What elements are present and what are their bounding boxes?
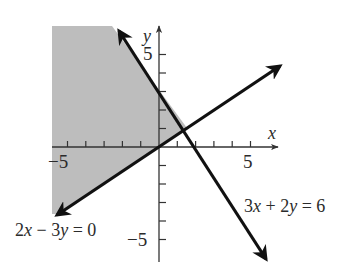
eq1-op: +: [261, 196, 280, 216]
equation-label-3x-plus-2y: 3x + 2y = 6: [244, 196, 325, 216]
eq2-var-x: x: [23, 220, 32, 240]
y-tick-label-5: 5: [143, 43, 153, 64]
eq2-coef-a: 2: [15, 220, 24, 240]
inequality-graph: x y −5 5 5 −5 3x + 2y = 6 2x − 3y = 0: [0, 0, 352, 271]
x-tick-label-neg5: −5: [48, 151, 68, 172]
y-tick-label-neg5: −5: [127, 229, 147, 250]
eq1-var-x: x: [252, 196, 261, 216]
eq2-coef-b: 3: [51, 220, 60, 240]
x-tick-label-5: 5: [243, 151, 253, 172]
eq1-coef-a: 3: [244, 196, 253, 216]
shaded-region: [52, 26, 187, 214]
equation-label-2x-minus-3y: 2x − 3y = 0: [15, 220, 96, 240]
x-axis-label: x: [267, 123, 276, 143]
eq2-op: −: [32, 220, 51, 240]
eq1-var-y: y: [287, 196, 297, 216]
eq1-coef-b: 2: [280, 196, 289, 216]
eq1-rhs: = 6: [297, 196, 325, 216]
eq2-rhs: = 0: [68, 220, 96, 240]
eq2-var-y: y: [58, 220, 68, 240]
